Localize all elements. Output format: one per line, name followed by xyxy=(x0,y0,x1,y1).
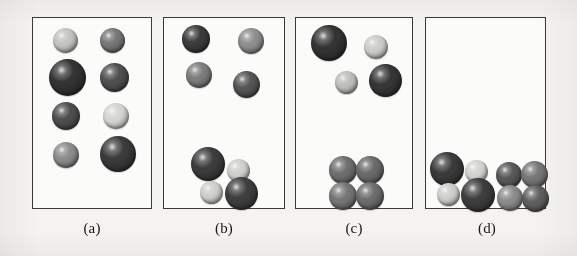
sphere-d3 xyxy=(437,183,460,206)
sphere-c7 xyxy=(329,182,357,210)
sphere-d4 xyxy=(461,178,495,212)
panel-label-d: (d) xyxy=(457,220,517,237)
sphere-c8 xyxy=(356,182,384,210)
panel-d xyxy=(425,17,546,209)
panel-a-content xyxy=(33,18,151,208)
panel-label-c: (c) xyxy=(324,220,384,237)
panel-b xyxy=(163,17,285,209)
sphere-a1 xyxy=(53,28,78,53)
sphere-c3 xyxy=(335,71,358,94)
sphere-c2 xyxy=(364,35,388,59)
sphere-d1 xyxy=(430,152,464,186)
sphere-a8 xyxy=(100,136,136,172)
panel-b-content xyxy=(164,18,284,208)
panel-label-a: (a) xyxy=(62,220,122,237)
sphere-d7 xyxy=(497,185,523,211)
sphere-a5 xyxy=(52,102,80,130)
panel-label-b: (b) xyxy=(194,220,254,237)
figure-four-panel-spheres: (a)(b)(c)(d) xyxy=(0,0,577,256)
sphere-c5 xyxy=(329,156,357,184)
sphere-d8 xyxy=(522,185,549,212)
sphere-d6 xyxy=(521,161,548,188)
sphere-b2 xyxy=(238,28,264,54)
sphere-b5 xyxy=(191,147,225,181)
sphere-a7 xyxy=(53,142,79,168)
panel-c xyxy=(295,17,413,209)
sphere-a4 xyxy=(100,63,129,92)
sphere-a3 xyxy=(49,59,86,96)
sphere-c6 xyxy=(356,156,384,184)
panel-c-content xyxy=(296,18,412,208)
sphere-b1 xyxy=(182,25,210,53)
sphere-b7 xyxy=(200,181,223,204)
sphere-b8 xyxy=(225,177,258,210)
sphere-a6 xyxy=(103,103,129,129)
panel-d-content xyxy=(426,18,545,208)
sphere-c4 xyxy=(369,64,402,97)
sphere-c1 xyxy=(311,25,347,61)
panel-a xyxy=(32,17,152,209)
sphere-b4 xyxy=(233,71,260,98)
sphere-b3 xyxy=(186,62,212,88)
sphere-a2 xyxy=(100,28,125,53)
